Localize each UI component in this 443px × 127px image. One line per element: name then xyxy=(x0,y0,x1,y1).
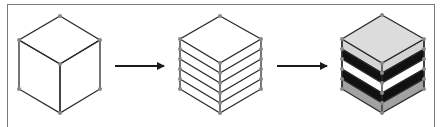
sliced-cube-icon xyxy=(178,14,263,115)
layered-material-cube-icon xyxy=(340,13,426,115)
solid-cube-icon xyxy=(17,14,102,115)
cube-layering-diagram xyxy=(0,0,443,127)
